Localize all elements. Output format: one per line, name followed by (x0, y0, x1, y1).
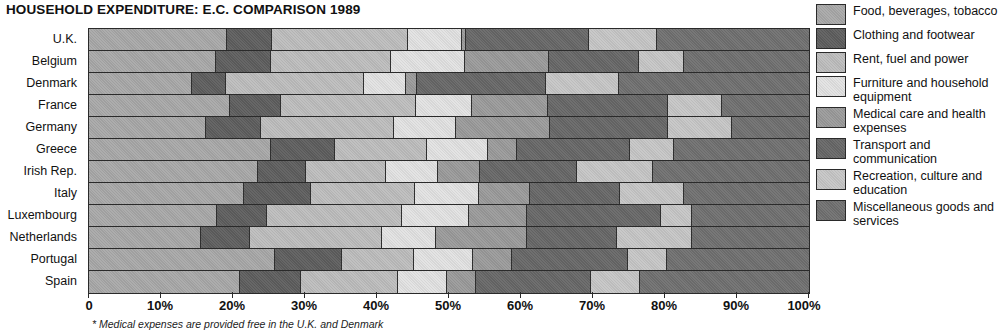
bar-segment (640, 271, 808, 293)
legend-item[interactable]: Furniture and household equipment (816, 76, 1001, 104)
y-axis-label: Portugal (0, 248, 82, 270)
bar-segment (391, 51, 465, 72)
legend-swatch (816, 4, 846, 25)
x-axis-tick-label: 30% (291, 298, 317, 313)
bar-segment (398, 271, 447, 293)
bar-segment (465, 51, 549, 72)
bar-segment (620, 183, 683, 204)
bar-segment (267, 205, 402, 226)
bar-segment (668, 117, 732, 138)
bar-segment (272, 29, 408, 50)
x-axis-tick-label: 10% (147, 298, 173, 313)
bar-row (89, 249, 809, 271)
bar-segment (657, 29, 809, 50)
legend-label: Miscellaneous goods and services (853, 200, 1001, 228)
legend-item[interactable]: Food, beverages, tobacco (816, 4, 1001, 25)
y-axis-label: France (0, 94, 82, 116)
bar-segment (250, 227, 382, 248)
bar-segment (517, 139, 629, 160)
bar-segment (216, 51, 271, 72)
bar-segment (661, 205, 693, 226)
legend-swatch (816, 52, 846, 73)
bar-segment (674, 139, 809, 160)
bar-segment (653, 161, 809, 182)
chart-title: HOUSEHOLD EXPENDITURE: E.C. COMPARISON 1… (6, 2, 360, 17)
bar-segment (408, 29, 462, 50)
bar-row (89, 227, 809, 249)
bar-row (89, 205, 809, 227)
bar-segment (617, 227, 691, 248)
x-axis-tick-label: 0 (85, 298, 92, 313)
y-axis-label: Italy (0, 182, 82, 204)
y-axis-label: Spain (0, 270, 82, 292)
bar-segment (488, 139, 518, 160)
bar-segment (479, 183, 530, 204)
legend-label: Clothing and footwear (853, 28, 975, 43)
bar-segment (456, 117, 550, 138)
x-axis-tick-label: 60% (507, 298, 533, 313)
legend: Food, beverages, tobaccoClothing and foo… (816, 4, 1001, 304)
bar-segment (684, 183, 809, 204)
bar-segment (271, 139, 334, 160)
bar-segment (275, 249, 343, 270)
bar-segment (550, 117, 668, 138)
bar-segment (668, 95, 722, 116)
legend-item[interactable]: Rent, fuel and power (816, 52, 1001, 73)
bar-segment (549, 51, 639, 72)
legend-item[interactable]: Transport and communication (816, 138, 1001, 166)
bar-row (89, 161, 809, 183)
legend-item[interactable]: Medical care and health expenses (816, 107, 1001, 135)
x-axis-tick-label: 70% (579, 298, 605, 313)
bar-segment (466, 29, 588, 50)
legend-item[interactable]: Miscellaneous goods and services (816, 200, 1001, 228)
bar-segment (89, 183, 244, 204)
bar-segment (469, 205, 527, 226)
bar-segment (335, 139, 428, 160)
x-axis-tick-label: 40% (363, 298, 389, 313)
bar-segment (722, 95, 809, 116)
y-axis-label: Irish Rep. (0, 160, 82, 182)
y-axis-label: U.K. (0, 28, 82, 50)
bar-segment (414, 249, 474, 270)
legend-swatch (816, 169, 846, 190)
legend-item[interactable]: Recreation, culture and education (816, 169, 1001, 197)
bar-segment (281, 95, 416, 116)
bar-row (89, 117, 809, 139)
bar-segment (692, 205, 809, 226)
bar-row (89, 139, 809, 161)
bar-row (89, 95, 809, 117)
legend-label: Rent, fuel and power (853, 52, 968, 67)
y-axis-labels: U.K.BelgiumDenmarkFranceGermanyGreeceIri… (0, 28, 82, 292)
bar-segment (639, 51, 684, 72)
bar-segment (406, 73, 418, 94)
bar-segment (415, 183, 479, 204)
bar-segment (512, 249, 628, 270)
bar-segment (476, 271, 591, 293)
bar-segment (546, 73, 619, 94)
bar-segment (301, 271, 398, 293)
bar-segment (89, 227, 201, 248)
y-axis-label: Netherlands (0, 226, 82, 248)
bar-segment (480, 161, 577, 182)
bar-segment (386, 161, 438, 182)
bar-segment (628, 249, 668, 270)
legend-swatch (816, 107, 846, 128)
plot-area (88, 28, 810, 294)
bar-segment (589, 29, 657, 50)
bar-segment (306, 161, 387, 182)
bar-segment (89, 95, 230, 116)
chart-container: HOUSEHOLD EXPENDITURE: E.C. COMPARISON 1… (0, 0, 1001, 332)
bar-segment (630, 139, 674, 160)
bar-segment (548, 95, 668, 116)
y-axis-label: Luxembourg (0, 204, 82, 226)
legend-item[interactable]: Clothing and footwear (816, 28, 1001, 49)
bar-segment (89, 117, 206, 138)
legend-swatch (816, 200, 846, 221)
bar-segment (438, 161, 480, 182)
x-axis-tick-label: 20% (219, 298, 245, 313)
bar-segment (427, 139, 487, 160)
bar-segment (311, 183, 415, 204)
x-axis: 010%20%30%40%50%60%70%80%90%100% (88, 292, 808, 293)
legend-swatch (816, 76, 846, 97)
bar-segment (89, 29, 227, 50)
